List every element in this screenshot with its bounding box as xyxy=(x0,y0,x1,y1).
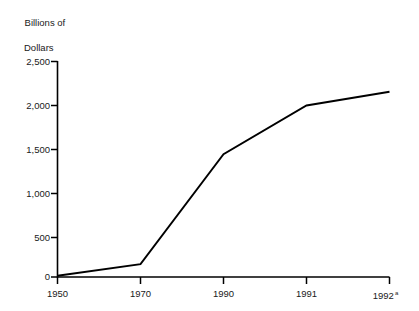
x-tick-label-1992: 1992a xyxy=(356,288,416,301)
x-tick-label-1990: 1990 xyxy=(194,288,254,299)
data-series-line xyxy=(58,92,390,276)
x-tick-label-1992-text: 1992 xyxy=(373,290,394,301)
x-tick-label-1991: 1991 xyxy=(277,288,337,299)
plot-area xyxy=(0,0,419,311)
chart-container: Billions of Dollars 2,500 2,000 1,500 1,… xyxy=(0,0,419,311)
footnote-marker: a xyxy=(395,290,398,296)
x-tick-label-1950: 1950 xyxy=(28,288,88,299)
x-tick-label-1970: 1970 xyxy=(111,288,171,299)
